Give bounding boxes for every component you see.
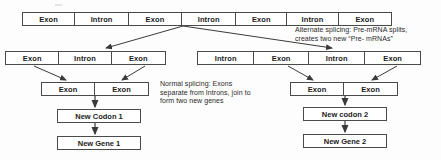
original-pre-mrna-row: Exon Intron Exon Intron Exon Intron Exon <box>22 12 392 26</box>
left-segment-exon-1: Exon <box>6 52 59 64</box>
segment-intron-2: Intron <box>182 13 236 25</box>
segment-exon-4: Exon <box>339 13 391 25</box>
right-joined-exons-row: Exon Exon <box>290 82 398 96</box>
right-joined-exon-1: Exon <box>291 83 344 95</box>
new-codon-1-box: New Codon 1 <box>57 109 141 123</box>
right-segment-intron-2: Intron <box>309 52 365 64</box>
segment-exon-2: Exon <box>129 13 182 25</box>
segment-exon-1: Exon <box>23 13 75 25</box>
left-joined-exon-2: Exon <box>95 83 148 95</box>
split-arrow-left <box>106 26 183 48</box>
segment-exon-3: Exon <box>236 13 287 25</box>
new-gene-2-box: New Gene 2 <box>303 134 387 148</box>
right-segment-exon-1: Exon <box>254 52 309 64</box>
left-pre-mrna-row: Exon Intron Exon <box>5 51 166 65</box>
left-joined-exons-row: Exon Exon <box>41 82 149 96</box>
segment-intron-1: Intron <box>75 13 129 25</box>
new-gene-1-box: New Gene 1 <box>57 136 141 150</box>
normal-splicing-note: Normal splicing: Exons separate from Int… <box>160 80 278 106</box>
left-joined-exon-1: Exon <box>42 83 95 95</box>
right-pre-mrna-row: Intron Exon Intron Exon <box>197 51 421 65</box>
right-segment-intron-1: Intron <box>198 52 254 64</box>
segment-intron-3: Intron <box>287 13 339 25</box>
splicing-diagram: Exon Intron Exon Intron Exon Intron Exon… <box>0 0 441 160</box>
left-exon1-join-arrow <box>34 66 66 80</box>
right-joined-exon-2: Exon <box>344 83 397 95</box>
right-segment-exon-2: Exon <box>365 52 420 64</box>
new-codon-2-box: New codon 2 <box>303 107 387 121</box>
alternate-splicing-note: Alternate splicing: Pre-mRNA splits, cre… <box>295 26 441 43</box>
scan-artifact <box>55 4 62 6</box>
right-exon2-join-arrow <box>372 66 397 80</box>
left-exon2-join-arrow <box>122 66 145 80</box>
right-exon1-join-arrow <box>288 66 313 80</box>
left-segment-intron-1: Intron <box>59 52 111 64</box>
left-segment-exon-2: Exon <box>112 52 165 64</box>
